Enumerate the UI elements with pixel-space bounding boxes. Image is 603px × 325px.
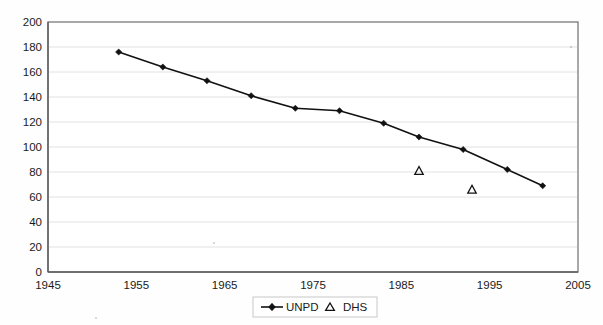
x-tick-label: 1955 — [124, 279, 150, 291]
y-tick-label: 80 — [29, 166, 42, 178]
y-tick-label: 20 — [29, 241, 42, 253]
legend-label-dhs: DHS — [343, 301, 368, 313]
line-chart: 020406080100120140160180200 194519551965… — [0, 0, 603, 325]
y-tick-label: 200 — [23, 16, 42, 28]
y-tick-label: 160 — [23, 66, 42, 78]
y-tick-label: 40 — [29, 216, 42, 228]
x-tick-label: 1965 — [212, 279, 238, 291]
chart-container: 020406080100120140160180200 194519551965… — [0, 0, 603, 325]
y-axis-tick-labels: 020406080100120140160180200 — [23, 16, 42, 278]
scan-speck — [570, 46, 573, 49]
x-tick-label: 1945 — [35, 279, 61, 291]
y-tick-label: 60 — [29, 191, 42, 203]
legend-label-unpd: UNPD — [286, 301, 319, 313]
x-tick-label: 1975 — [300, 279, 326, 291]
y-tick-label: 180 — [23, 41, 42, 53]
x-tick-label: 1985 — [389, 279, 415, 291]
y-tick-label: 140 — [23, 91, 42, 103]
x-tick-label: 1995 — [477, 279, 503, 291]
chart-legend: UNPD DHS — [253, 297, 377, 317]
scan-speck — [95, 317, 97, 319]
x-tick-label: 2005 — [565, 279, 591, 291]
y-tick-label: 100 — [23, 141, 42, 153]
y-tick-label: 0 — [36, 266, 42, 278]
x-axis-tick-labels: 1945195519651975198519952005 — [35, 279, 591, 291]
scan-speck — [213, 242, 215, 244]
y-tick-label: 120 — [23, 116, 42, 128]
